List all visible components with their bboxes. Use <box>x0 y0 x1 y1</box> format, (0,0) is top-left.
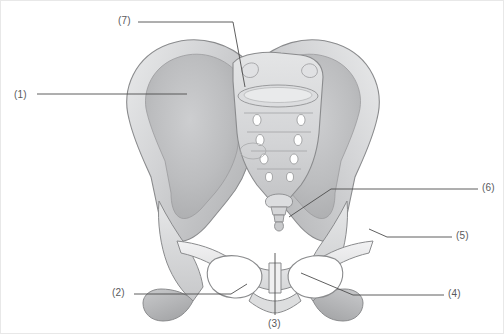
pelvis-illustration <box>1 1 504 334</box>
label-5: (5) <box>456 231 469 241</box>
leader-5 <box>369 229 452 237</box>
label-3: (3) <box>268 319 281 329</box>
label-4: (4) <box>448 289 461 299</box>
label-6: (6) <box>482 183 495 193</box>
right-obturator-foramen <box>288 256 343 298</box>
label-7: (7) <box>118 16 131 26</box>
label-2: (2) <box>112 288 125 298</box>
figure-container: (1) (2) (3) (4) (5) (6) (7) <box>0 0 504 334</box>
label-1: (1) <box>14 90 27 100</box>
